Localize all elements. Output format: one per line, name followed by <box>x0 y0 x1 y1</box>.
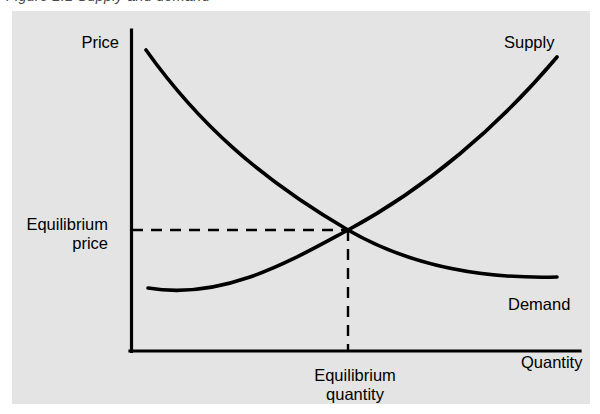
supply-demand-figure: Price Supply Demand Quantity Equilibrium… <box>12 11 590 404</box>
demand-curve-label: Demand <box>508 295 570 314</box>
y-axis-label: Price <box>12 33 119 52</box>
demand-curve <box>146 50 557 277</box>
supply-demand-plot <box>12 11 590 404</box>
supply-curve-label: Supply <box>504 33 554 52</box>
equilibrium-quantity-label-line1: Equilibrium <box>265 366 445 385</box>
figure-caption: Figure 2.1 Supply and demand <box>6 0 210 4</box>
supply-curve <box>148 57 557 290</box>
equilibrium-quantity-label: Equilibrium quantity <box>265 366 445 404</box>
equilibrium-price-label: Equilibrium price <box>12 215 108 253</box>
equilibrium-quantity-label-line2: quantity <box>265 385 445 404</box>
equilibrium-price-label-line2: price <box>12 234 108 253</box>
equilibrium-price-label-line1: Equilibrium <box>12 215 108 234</box>
x-axis-label: Quantity <box>521 353 582 372</box>
figure-caption-strip: Figure 2.1 Supply and demand <box>0 0 600 11</box>
